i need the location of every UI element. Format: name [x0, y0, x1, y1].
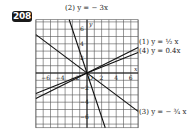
svg-text:4: 4 — [80, 40, 84, 47]
svg-text:2: 2 — [100, 74, 104, 81]
svg-text:−6: −6 — [80, 113, 89, 120]
line-4-label: (4) y = 0.4x — [139, 47, 181, 55]
svg-text:6: 6 — [80, 25, 84, 32]
svg-text:−6: −6 — [41, 74, 50, 81]
line-1-label: (1) y = ½ x — [139, 38, 178, 46]
svg-text:−4: −4 — [80, 98, 89, 105]
svg-text:−2: −2 — [80, 84, 89, 91]
svg-text:−4: −4 — [56, 74, 65, 81]
svg-text:x: x — [134, 65, 138, 72]
svg-text:6: 6 — [129, 74, 133, 81]
line-3-label: (3) y = − ¾ x — [139, 108, 186, 116]
svg-text:y: y — [88, 20, 93, 28]
line-2-label: (2) y = − 3x — [65, 4, 108, 12]
svg-text:4: 4 — [114, 74, 118, 81]
